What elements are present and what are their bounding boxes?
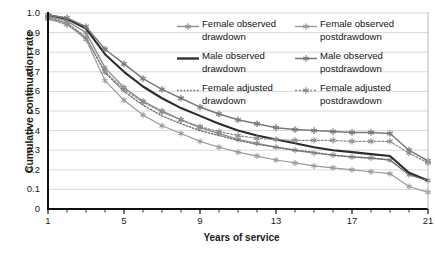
x-tick-label: 13: [266, 216, 286, 226]
legend-label-line1: Female adjusted: [320, 82, 391, 93]
legend-item-female-observed-postdrawdown: Female observedpostdrawdown: [294, 13, 414, 42]
legend-label-line2: drawdown: [202, 31, 296, 42]
legend-column-postdrawdown: Female observedpostdrawdown Male observe…: [294, 13, 414, 109]
y-tick-label: 0.4: [12, 126, 40, 136]
y-tick-label: 0.7: [12, 67, 40, 77]
y-tick-label: 0.1: [12, 184, 40, 194]
legend-swatch-icon: [294, 81, 318, 90]
legend-item-male-observed-postdrawdown: Male observedpostdrawdown: [294, 45, 414, 74]
legend-swatch-icon: [176, 81, 200, 90]
legend-label-line1: Male observed: [320, 50, 383, 61]
legend-label-line2: postdrawdown: [320, 63, 414, 74]
legend-label-line1: Female observed: [202, 18, 276, 29]
legend-label-line1: Female observed: [320, 18, 394, 29]
legend-item-female-adjusted-postdrawdown: Female adjustedpostdrawdown: [294, 77, 414, 106]
legend-swatch-icon: [294, 49, 318, 58]
y-tick-label: 0.6: [12, 86, 40, 96]
y-tick-label: 0.8: [12, 47, 40, 57]
y-tick-label: 0.3: [12, 145, 40, 155]
y-tick-label: 0: [12, 204, 40, 214]
x-tick-label: 1: [38, 216, 58, 226]
y-tick-label: 1.0: [12, 8, 40, 18]
x-tick-label: 9: [190, 216, 210, 226]
legend-item-female-observed-drawdown: Female observeddrawdown: [176, 13, 296, 42]
x-tick-label: 17: [342, 216, 362, 226]
x-axis-title: Years of service: [48, 232, 435, 243]
x-tick-label: 21: [418, 216, 435, 226]
legend-label-line2: postdrawdown: [320, 95, 414, 106]
legend-column-drawdown: Female observeddrawdown Male observeddra…: [176, 13, 296, 109]
x-tick-label: 5: [114, 216, 134, 226]
y-tick-label: 0.9: [12, 28, 40, 38]
chart-container: Cumulative continuation rate Years of se…: [0, 0, 435, 254]
legend-swatch-icon: [176, 49, 200, 58]
legend-swatch-icon: [176, 17, 200, 26]
legend-label-line1: Female adjusted: [202, 82, 273, 93]
legend-swatch-icon: [294, 17, 318, 26]
legend-item-male-observed-drawdown: Male observeddrawdown: [176, 45, 296, 74]
legend-label-line2: postdrawdown: [320, 31, 414, 42]
legend-label-line2: drawdown: [202, 95, 296, 106]
y-tick-label: 0.2: [12, 165, 40, 175]
chart-legend: Female observeddrawdown Male observeddra…: [176, 13, 428, 95]
y-tick-label: 0.5: [12, 106, 40, 116]
legend-label-line1: Male observed: [202, 50, 265, 61]
legend-item-female-adjusted-drawdown: Female adjusteddrawdown: [176, 77, 296, 106]
legend-label-line2: drawdown: [202, 63, 296, 74]
